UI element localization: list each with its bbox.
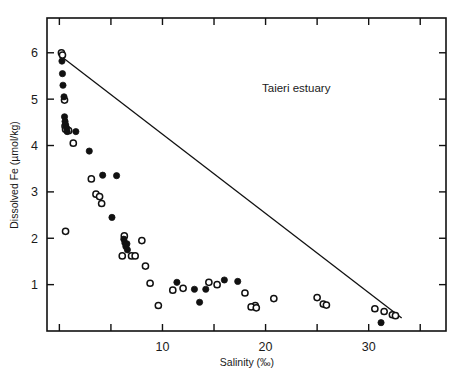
data-point-filled (61, 94, 67, 100)
data-point-open (392, 313, 398, 319)
data-point-open (147, 280, 153, 286)
data-series-filled-circles (59, 58, 384, 326)
x-tick-label: 30 (362, 340, 376, 354)
data-point-filled (124, 247, 130, 253)
data-point-filled (59, 71, 65, 77)
x-axis-ticks (59, 324, 420, 331)
data-point-open (381, 308, 387, 314)
top-axis-ticks (59, 18, 420, 25)
mixing-line-path (59, 55, 401, 318)
data-point-filled (109, 214, 115, 220)
data-point-filled (174, 279, 180, 285)
data-point-open (314, 295, 320, 301)
y-tick-label: 5 (31, 93, 38, 107)
y-tick-label: 1 (31, 278, 38, 292)
data-point-open (271, 295, 277, 301)
data-point-open (323, 302, 329, 308)
x-tick-label: 20 (259, 340, 273, 354)
plot-frame (47, 18, 446, 331)
data-point-open (253, 305, 259, 311)
data-point-filled (191, 286, 197, 292)
data-point-open (155, 302, 161, 308)
data-point-filled (60, 82, 66, 88)
data-point-filled (86, 148, 92, 154)
data-point-open (142, 263, 148, 269)
x-tick-label: 10 (156, 340, 170, 354)
data-point-filled (235, 278, 241, 284)
data-point-open (170, 287, 176, 293)
data-point-open (372, 306, 378, 312)
data-point-open (59, 52, 65, 58)
data-point-open (96, 193, 102, 199)
y-tick-label: 2 (31, 232, 38, 246)
data-point-open (119, 253, 125, 259)
data-point-open (62, 228, 68, 234)
data-point-open (214, 282, 220, 288)
data-point-filled (100, 172, 106, 178)
y-tick-label: 3 (31, 185, 38, 199)
conservative-mixing-line (59, 55, 401, 318)
data-point-filled (221, 277, 227, 283)
plot-canvas: 102030 123456 Taieri estuary Salinity (‰… (0, 0, 457, 379)
x-axis-tick-labels: 102030 (156, 340, 376, 354)
data-point-filled (59, 58, 65, 64)
data-point-filled (124, 241, 130, 247)
scatter-plot-figure: 102030 123456 Taieri estuary Salinity (‰… (0, 0, 457, 379)
y-tick-label: 6 (31, 46, 38, 60)
data-point-open (99, 200, 105, 206)
data-point-open (70, 140, 76, 146)
data-point-filled (73, 129, 79, 135)
data-point-open (132, 253, 138, 259)
data-point-open (242, 290, 248, 296)
data-point-filled (203, 286, 209, 292)
y-axis-title: Dissolved Fe (µmol/kg) (8, 121, 20, 229)
data-point-filled (378, 320, 384, 326)
y-axis-tick-labels: 123456 (31, 46, 38, 292)
data-point-filled (64, 129, 70, 135)
data-point-open (206, 279, 212, 285)
data-point-open (180, 285, 186, 291)
y-axis-ticks (47, 53, 54, 285)
data-point-filled (113, 173, 119, 179)
data-point-open (88, 176, 94, 182)
x-axis-title: Salinity (‰) (220, 356, 274, 368)
plot-annotation-label: Taieri estuary (262, 82, 331, 94)
right-axis-ticks (439, 53, 446, 285)
data-point-filled (196, 299, 202, 305)
y-tick-label: 4 (31, 139, 38, 153)
data-point-open (139, 237, 145, 243)
